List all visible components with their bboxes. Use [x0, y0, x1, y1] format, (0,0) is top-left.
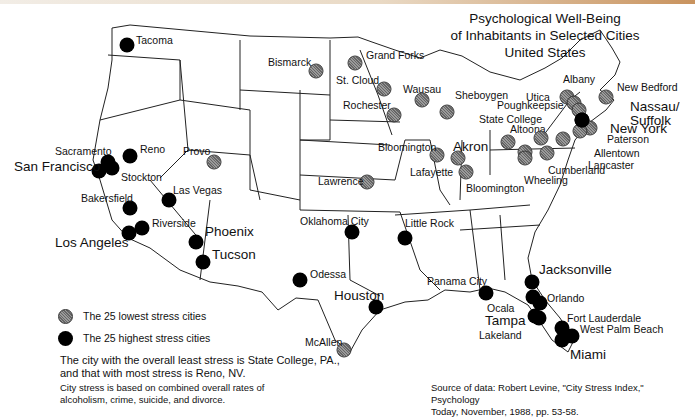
city-label: New York [610, 122, 667, 136]
low-stress-city-marker-icon [599, 90, 614, 105]
high-stress-city-marker-icon [189, 235, 204, 250]
solid-circle-icon [58, 331, 73, 346]
low-stress-city-marker-icon [348, 56, 363, 71]
city-label: Stockton [121, 172, 162, 183]
low-stress-city-marker-icon [440, 105, 455, 120]
high-stress-city-marker-icon [525, 275, 540, 290]
city-label: McAllen [305, 337, 342, 348]
city-label: Bloomington [378, 142, 436, 153]
high-stress-city-marker-icon [575, 113, 590, 128]
city-label: Reno [140, 144, 165, 155]
city-label: Wheeling [524, 175, 568, 186]
high-stress-city-marker-icon [479, 286, 494, 301]
high-stress-city-marker-icon [398, 231, 413, 246]
method-note: City stress is based on combined overall… [60, 382, 264, 406]
city-label: Wausau [403, 84, 441, 95]
high-stress-city-marker-icon [105, 161, 120, 176]
legend-label-low: The 25 lowest stress cities [83, 310, 206, 322]
city-label: Little Rock [405, 218, 454, 229]
city-label: Las Vegas [173, 185, 222, 196]
city-label: Oklahoma City [300, 216, 369, 227]
city-label: Lawrence [318, 176, 364, 187]
high-stress-city-marker-icon [293, 273, 308, 288]
source-citation: Source of data: Robert Levine, "City Str… [431, 382, 691, 418]
city-label: Bloomington [466, 183, 524, 194]
city-label: Sacramento [55, 146, 112, 157]
city-label: Albany [563, 74, 595, 85]
city-label: Orlando [547, 293, 584, 304]
legend-item-high: The 25 highest stress cities [58, 327, 210, 349]
hatched-circle-icon [58, 309, 73, 324]
legend-label-high: The 25 highest stress cities [83, 332, 210, 344]
city-label: Riverside [152, 218, 196, 229]
title-line-1: Psychological Well-Being [440, 10, 650, 27]
city-label: Akron [453, 140, 488, 154]
city-label: Lancaster [588, 160, 634, 171]
title-line-3: United States [440, 44, 650, 61]
city-label: Miami [570, 348, 606, 362]
city-label: Bismarck [268, 57, 311, 68]
high-stress-city-marker-icon [196, 255, 211, 270]
city-label: Los Angeles [55, 236, 129, 250]
low-stress-city-marker-icon [534, 131, 549, 146]
low-stress-city-marker-icon [540, 146, 555, 161]
city-label: Grand Forks [366, 50, 424, 61]
low-stress-city-marker-icon [518, 151, 533, 166]
summary-line-2: and that with most stress is Reno, NV. [60, 367, 340, 380]
high-stress-city-marker-icon [123, 149, 138, 164]
legend-item-low: The 25 lowest stress cities [58, 305, 210, 327]
map-title: Psychological Well-Being of Inhabitants … [440, 10, 650, 61]
city-label: Jacksonville [539, 263, 612, 277]
high-stress-city-marker-icon [555, 333, 570, 348]
summary-note: The city with the overall least stress i… [60, 354, 340, 380]
city-label: Poughkeepsie [497, 100, 564, 111]
city-label: San Francisco [14, 160, 100, 174]
title-line-2: of Inhabitants in Selected Cities [440, 27, 650, 44]
city-label: New Bedford [617, 82, 678, 93]
source-line-1: Source of data: Robert Levine, "City Str… [431, 382, 691, 406]
city-label: Provo [183, 146, 210, 157]
city-label: Houston [334, 289, 384, 303]
legend: The 25 lowest stress cities The 25 highe… [58, 305, 210, 349]
city-label: Rochester [343, 100, 391, 111]
city-label: State College [479, 114, 542, 125]
city-label: West Palm Beach [580, 324, 663, 335]
city-label: Phoenix [205, 225, 254, 239]
method-line-2: alcoholism, crime, suicide, and divorce. [60, 394, 264, 406]
city-label: Tucson [212, 248, 256, 262]
source-line-2: Today, November, 1988, pp. 53-58. [431, 406, 691, 418]
city-label: Allentown [594, 148, 640, 159]
high-stress-city-marker-icon [120, 38, 135, 53]
high-stress-city-marker-icon [532, 311, 547, 326]
high-stress-city-marker-icon [135, 221, 150, 236]
low-stress-city-marker-icon [501, 135, 516, 150]
low-stress-city-marker-icon [556, 132, 571, 147]
high-stress-city-marker-icon [526, 290, 541, 305]
city-label: St. Cloud [336, 75, 379, 86]
city-label: Lafayette [410, 167, 453, 178]
summary-line-1: The city with the overall least stress i… [60, 354, 340, 367]
city-label: Bakersfield [81, 193, 133, 204]
city-label: Tacoma [136, 35, 173, 46]
low-stress-city-marker-icon [459, 165, 474, 180]
method-line-1: City stress is based on combined overall… [60, 382, 264, 394]
city-label: Tampa [485, 314, 526, 328]
city-label: Panama City [427, 276, 487, 287]
city-label: Odessa [310, 269, 346, 280]
city-label: Lakeland [479, 330, 522, 341]
